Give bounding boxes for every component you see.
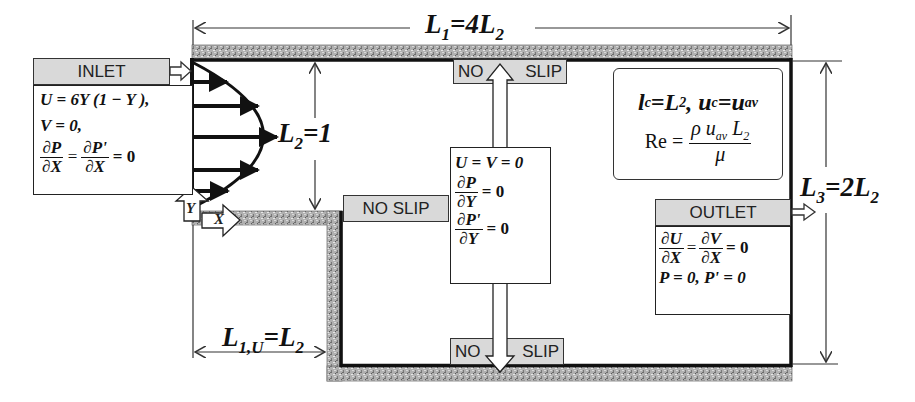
outlet-eq-velocity: ∂U∂X = ∂V∂X = 0	[659, 230, 787, 267]
outlet-conditions: ∂U∂X = ∂V∂X = 0 P = 0, P' = 0	[655, 226, 791, 315]
x-axis-label: X	[214, 211, 224, 228]
y-axis-label: Y	[186, 200, 195, 217]
reynolds-number: Re = ρ uav L2 μ	[614, 118, 782, 165]
dimension-L3-label: L3=2L2	[800, 172, 879, 208]
nondimensional-scales-note: lc =L2 , uc =uav Re = ρ uav L2 μ	[613, 68, 783, 180]
dimension-L1-label: L1=4L2	[425, 9, 504, 45]
outlet-label: OUTLET	[655, 199, 791, 226]
scales-line: lc =L2 , uc =uav	[614, 89, 782, 116]
dimension-L1U-label: L1,U=L2	[222, 322, 304, 358]
dimension-L2-label: L2=1	[278, 118, 332, 154]
outlet-eq-pressure: P = 0, P' = 0	[659, 268, 787, 288]
